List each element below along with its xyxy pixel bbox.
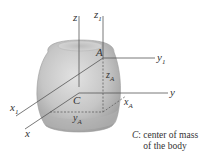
x1-subscript: 1: [15, 108, 19, 116]
point-A-label: A: [96, 47, 103, 58]
yA-subscript: A: [77, 118, 81, 126]
z1-subscript: 1: [98, 15, 102, 23]
caption: C: center of mass of the body: [129, 130, 201, 152]
xA-label: xA: [124, 97, 133, 110]
zA-subscript: A: [110, 75, 114, 83]
z1-axis-label: z1: [94, 9, 102, 23]
y-label-text: y: [170, 86, 175, 98]
x1-axis-label: x1: [10, 102, 18, 116]
y-axis-label: y: [170, 87, 175, 98]
y1-subscript: 1: [162, 58, 166, 66]
yA-label: yA: [73, 113, 82, 126]
caption-line1: : center of mass: [138, 130, 198, 140]
caption-line2: of the body: [143, 141, 186, 151]
z-axis-label: z: [73, 12, 77, 23]
y1-axis-label: y1: [157, 52, 165, 66]
point-C-label: C: [73, 95, 80, 106]
z-label-text: z: [73, 11, 77, 23]
x-axis-label: x: [25, 128, 30, 139]
zA-label: zA: [106, 70, 114, 83]
x-label-text: x: [25, 127, 30, 139]
xA-subscript: A: [128, 102, 132, 110]
